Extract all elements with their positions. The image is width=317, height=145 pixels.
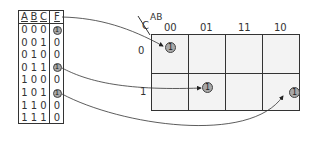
arrow-011 <box>62 68 201 88</box>
arrow-101 <box>62 94 283 126</box>
corner-diagonal <box>138 16 150 35</box>
arrows-layer <box>0 0 317 145</box>
